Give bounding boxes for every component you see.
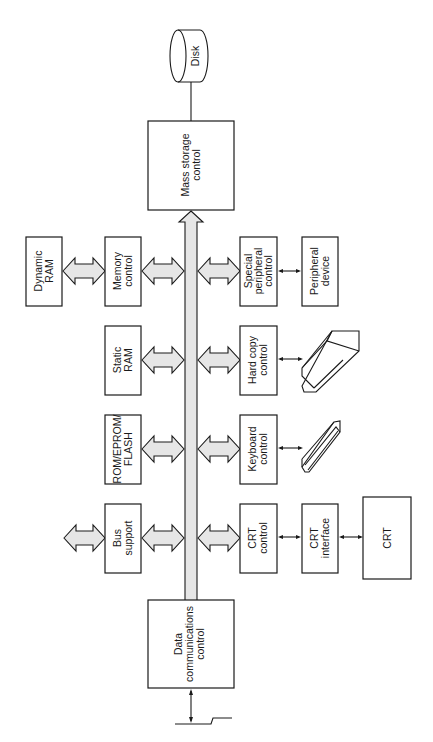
bus-support-bus-arrow: [142, 525, 184, 551]
data-communications-control-block: Data communications control: [148, 600, 234, 688]
system-block-diagram: Disk Mass storage control Dynamic RAM Me…: [0, 0, 433, 742]
static-ram-label-2: RAM: [122, 348, 134, 371]
rom-bus-arrow: [142, 436, 184, 462]
hard-copy-bus-arrow: [198, 347, 240, 373]
printer-icon: [302, 331, 359, 392]
mass-storage-label-2: control: [190, 149, 202, 181]
data-comm-label-3: control: [194, 628, 206, 660]
dynamic-ram-memory-arrow: [63, 258, 105, 284]
crt-interface-label-2: interface: [319, 518, 331, 558]
keyboard-bus-arrow: [198, 436, 240, 462]
keyboard-link-arrow: [278, 446, 303, 450]
special-peripheral-bus-arrow: [198, 258, 240, 284]
memory-control-label-2: control: [122, 255, 134, 287]
memory-bus-arrow: [142, 258, 184, 284]
mass-storage-control-block: Mass storage control: [148, 121, 234, 210]
crt-control-bus-arrow: [198, 525, 240, 551]
peripheral-device-label-2: device: [319, 256, 331, 287]
keyboard-label-2: control: [257, 433, 269, 465]
rom-label-2: FLASH: [122, 432, 134, 466]
printer-link-arrow: [278, 357, 303, 361]
bus-support-label-2: support: [122, 520, 134, 555]
static-ram-bus-arrow: [142, 347, 184, 373]
peripheral-link-arrow: [278, 269, 301, 273]
hard-copy-label-2: control: [257, 344, 269, 376]
dynamic-ram-label-2: RAM: [43, 259, 55, 282]
crt-label: CRT: [381, 527, 393, 549]
crt-control-interface-arrow: [278, 535, 301, 539]
crt-interface-crt-arrow: [339, 535, 363, 539]
special-peripheral-label-3: control: [262, 255, 274, 287]
communication-line-icon: [175, 718, 232, 724]
disk-icon: Disk: [170, 30, 208, 82]
external-bus-arrow: [64, 525, 105, 551]
comm-line-arrow: [189, 689, 193, 723]
disk-label: Disk: [189, 45, 201, 66]
crt-control-label-2: control: [257, 522, 269, 554]
keyboard-icon: [302, 421, 340, 472]
